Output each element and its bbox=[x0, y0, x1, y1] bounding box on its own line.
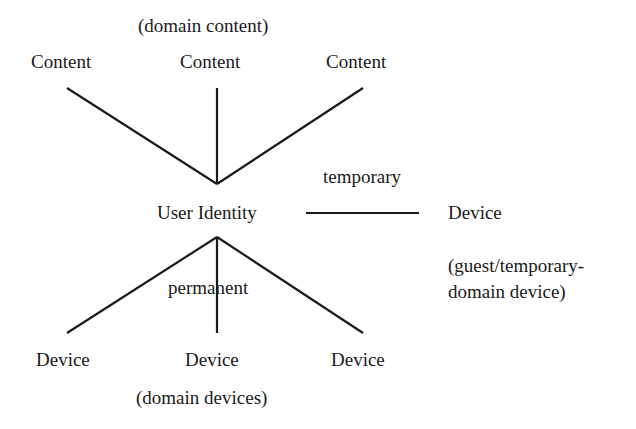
device-node-left: Device bbox=[36, 349, 90, 371]
temporary-device-node: Device bbox=[448, 202, 502, 224]
permanent-label: permanent bbox=[168, 277, 248, 299]
guest-device-caption-line1: (guest/temporary- bbox=[448, 255, 584, 277]
identity-diagram: (domain content) Content Content Content… bbox=[0, 0, 636, 429]
user-identity-node: User Identity bbox=[157, 202, 257, 224]
domain-content-caption: (domain content) bbox=[138, 15, 268, 37]
domain-devices-caption: (domain devices) bbox=[136, 387, 267, 409]
content-node-center: Content bbox=[180, 51, 240, 73]
content-node-left: Content bbox=[31, 51, 91, 73]
device-node-right: Device bbox=[331, 349, 385, 371]
content-node-right: Content bbox=[326, 51, 386, 73]
guest-device-caption-line2: domain device) bbox=[448, 281, 566, 303]
device-node-center: Device bbox=[185, 349, 239, 371]
temporary-label: temporary bbox=[323, 166, 401, 188]
connector-lines bbox=[0, 0, 636, 429]
